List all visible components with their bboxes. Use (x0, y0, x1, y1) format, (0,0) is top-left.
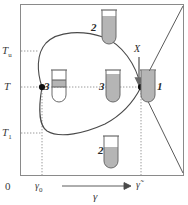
y-tick-label-T: T (4, 81, 10, 95)
y-tick-label-Tu: Tu (2, 45, 12, 59)
tube-3-left (51, 70, 67, 102)
x-tick-label-gamma0: γ0 (35, 181, 42, 194)
region-label-3-left: 3 (44, 81, 50, 92)
binodal-upper-branch (38, 33, 141, 87)
x-axis-arrow (62, 183, 131, 190)
region-label-2-bottom: 2 (98, 145, 104, 156)
tube-2-top (101, 10, 117, 44)
x-axis-arrow-head (124, 183, 131, 190)
tube-2-bottom (103, 136, 119, 170)
tube-2-top-fill (102, 16, 116, 44)
x-annotation-label: X (134, 43, 140, 54)
binodal-lower-branch (40, 87, 141, 135)
phase-diagram-figure: Tu T T1 0 γ0 γ̃ γ 2 3 3 1 2 X (0, 0, 188, 205)
tube-3-left-fill (52, 80, 66, 87)
region-label-2-top: 2 (91, 22, 97, 33)
x-axis-title: γ (93, 191, 97, 202)
tube-3-middle (105, 70, 121, 102)
guide-lines (21, 51, 141, 176)
origin-label: 0 (5, 180, 11, 192)
tube-1-right (140, 70, 156, 102)
y-tick-label-T1: T1 (2, 127, 12, 141)
region-label-1-right: 1 (157, 81, 163, 92)
tube-3-middle-fill (106, 74, 120, 102)
tube-1-right-fill (141, 71, 155, 102)
x-tick-label-gammabar: γ̃ (136, 180, 140, 190)
region-label-3-middle: 3 (99, 81, 105, 92)
